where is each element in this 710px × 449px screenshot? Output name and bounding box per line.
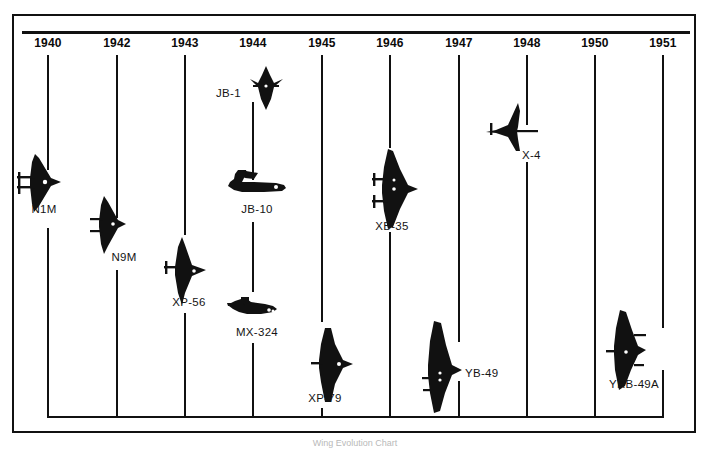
timeline-rule-1946-a <box>389 55 391 148</box>
aircraft-silhouette-mx324 <box>225 296 281 322</box>
timeline-rule-1951-b <box>662 370 664 418</box>
timeline-rule-1942-b <box>116 270 118 418</box>
year-label-1943: 1943 <box>171 36 199 50</box>
aircraft-label-jb10: JB-10 <box>241 203 273 215</box>
aircraft-silhouette-jb1 <box>247 65 285 111</box>
year-label-1950: 1950 <box>581 36 609 50</box>
timeline-rule-1946-b <box>389 232 391 418</box>
year-label-1944: 1944 <box>239 36 267 50</box>
year-label-1945: 1945 <box>308 36 336 50</box>
aircraft-silhouette-n9m <box>88 194 132 256</box>
aircraft-label-n9m: N9M <box>111 251 136 263</box>
timeline-rule-1943-a <box>184 55 186 235</box>
timeline-bottom-rule <box>47 416 664 418</box>
aircraft-label-jb1: JB-1 <box>216 87 241 99</box>
timeline-rule-1950 <box>594 55 596 418</box>
aircraft-label-n1m: N1M <box>31 203 56 215</box>
figure-caption: Wing Evolution Chart <box>0 438 710 448</box>
aircraft-silhouette-yb49 <box>420 319 466 415</box>
year-label-1951: 1951 <box>649 36 677 50</box>
aircraft-label-xp79: XP-79 <box>308 392 341 404</box>
timeline-rule-1944-b <box>252 222 254 292</box>
year-label-1948: 1948 <box>513 36 541 50</box>
aircraft-label-yb49: YB-49 <box>465 367 498 379</box>
aircraft-silhouette-jb10 <box>224 168 290 202</box>
timeline-top-rule <box>22 31 690 34</box>
timeline-rule-1948-b <box>526 162 528 418</box>
aircraft-label-xb35: XB-35 <box>375 220 408 232</box>
timeline-rule-1944-c <box>252 343 254 418</box>
year-label-1942: 1942 <box>103 36 131 50</box>
timeline-rule-1951-a <box>662 55 664 328</box>
timeline-rule-1943-b <box>184 313 186 418</box>
aircraft-silhouette-xb35 <box>370 147 422 231</box>
aircraft-label-mx324: MX-324 <box>236 326 278 338</box>
aircraft-label-x4: X-4 <box>522 149 541 161</box>
aircraft-label-xp56: XP-56 <box>172 296 205 308</box>
timeline-rule-1947-a <box>458 55 460 342</box>
timeline-rule-1945-a <box>321 55 323 322</box>
timeline-rule-1940-b <box>47 228 49 418</box>
year-label-1940: 1940 <box>34 36 62 50</box>
aircraft-label-yrb49a: YRB-49A <box>609 378 659 390</box>
year-label-1947: 1947 <box>445 36 473 50</box>
flying-wing-timeline-figure: 1940 1942 1943 1944 1945 1946 1947 1948 … <box>0 0 710 449</box>
year-label-1946: 1946 <box>376 36 404 50</box>
